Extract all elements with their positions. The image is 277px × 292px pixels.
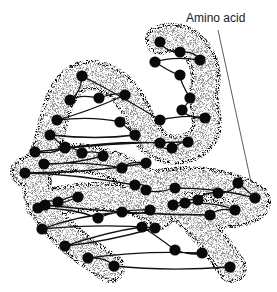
amino-acid-dot (194, 54, 205, 65)
amino-acid-dot (174, 46, 185, 57)
amino-acid-dot (76, 147, 87, 158)
amino-acid-dot (176, 104, 187, 115)
amino-acid-dot (179, 197, 190, 208)
amino-acid-dot (72, 191, 83, 202)
amino-acid-dot (224, 261, 235, 272)
amino-acid-dot (136, 221, 147, 232)
amino-acid-dot (38, 158, 49, 169)
amino-acid-dot (93, 92, 104, 103)
amino-acid-dot (184, 92, 195, 103)
amino-acid-dot (51, 114, 62, 125)
amino-acid-dot (29, 146, 40, 157)
amino-acid-dot (19, 167, 30, 178)
protein-diagram: Amino acid (0, 0, 277, 292)
amino-acid-dot (192, 194, 203, 205)
amino-acid-dot (59, 141, 70, 152)
amino-acid-dot (166, 142, 177, 153)
amino-acid-dot (44, 129, 55, 140)
amino-acid-dot (169, 244, 180, 255)
amino-acid-dot (154, 114, 165, 125)
amino-acid-dot (182, 136, 193, 147)
amino-acid-label: Amino acid (186, 11, 245, 25)
amino-acid-dot (76, 70, 87, 81)
amino-acid-dot (140, 157, 151, 168)
amino-acid-dot (36, 223, 47, 234)
amino-acid-dot (140, 184, 151, 195)
amino-acid-dot (204, 209, 215, 220)
amino-acid-dot (149, 56, 160, 67)
amino-acid-dot (59, 240, 70, 251)
amino-acid-dot (144, 204, 155, 215)
amino-acid-dot (108, 260, 119, 271)
amino-acid-dot (82, 252, 93, 263)
amino-acid-dot (116, 206, 127, 217)
amino-acid-dot (167, 199, 178, 210)
amino-acid-dot (232, 177, 243, 188)
amino-acid-dot (64, 94, 75, 105)
amino-acid-dot (32, 202, 43, 213)
amino-acid-dot (119, 89, 130, 100)
amino-acid-dot (212, 187, 223, 198)
amino-acid-dot (196, 247, 207, 258)
amino-acid-dot (52, 196, 63, 207)
protein-chain-figure (0, 0, 277, 292)
amino-acid-dot (229, 204, 240, 215)
amino-acid-dot (169, 182, 180, 193)
amino-acid-dot (154, 137, 165, 148)
amino-acid-dot (174, 69, 185, 80)
amino-acid-dot (92, 212, 103, 223)
amino-acid-dot (97, 150, 108, 161)
amino-acid-dot (129, 129, 140, 140)
label-pointer-line (218, 30, 251, 182)
amino-acid-dot (249, 192, 260, 203)
amino-acid-dot (116, 162, 127, 173)
amino-acid-dot (129, 179, 140, 190)
amino-acid-dot (114, 116, 125, 127)
amino-acid-dot (154, 36, 165, 47)
amino-acid-dot (149, 222, 160, 233)
amino-acid-dot (199, 112, 210, 123)
